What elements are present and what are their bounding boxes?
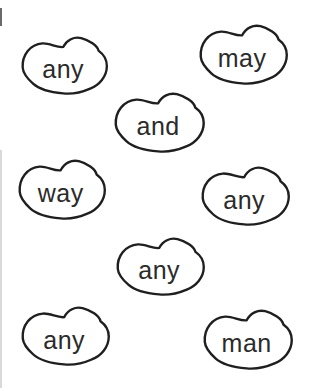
bean-word-label: any (43, 327, 85, 352)
bean-word-label: any (223, 187, 265, 212)
word-bean-and[interactable]: and (113, 91, 207, 155)
word-bean-man[interactable]: man (202, 308, 295, 372)
bean-word-label: any (42, 57, 84, 82)
scan-smudge-artifact (0, 8, 2, 26)
bean-word-label: any (138, 258, 180, 283)
worksheet-page: any may and way any any any man (0, 0, 316, 391)
word-bean-any-1[interactable]: any (20, 35, 110, 97)
bean-word-label: man (222, 331, 272, 356)
word-bean-any-3[interactable]: any (115, 236, 207, 298)
scan-edge-streak-artifact (0, 150, 2, 388)
bean-word-label: way (38, 181, 84, 206)
bean-word-label: and (137, 114, 180, 139)
word-bean-any-4[interactable]: any (20, 305, 112, 368)
bean-word-label: may (218, 46, 267, 71)
word-bean-any-2[interactable]: any (200, 165, 292, 228)
word-bean-may[interactable]: may (198, 23, 290, 87)
word-bean-way[interactable]: way (17, 158, 108, 222)
